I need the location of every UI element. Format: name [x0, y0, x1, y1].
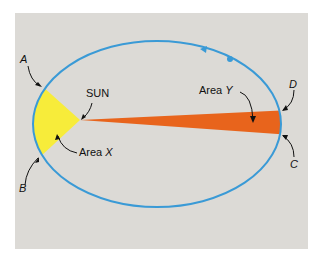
area-y-wedge: [80, 110, 290, 135]
label-area-x: Area X: [79, 146, 113, 158]
label-area-y: Area Y: [199, 84, 233, 96]
label-d: D: [289, 78, 297, 90]
label-c: C: [290, 158, 298, 170]
leader-area-x: [58, 136, 77, 153]
label-a: A: [20, 53, 27, 65]
label-b: B: [19, 182, 26, 194]
label-sun: SUN: [86, 87, 109, 99]
area-x-wedge: [20, 86, 80, 157]
orbit-diagram: [0, 0, 323, 264]
leader-d: [283, 90, 294, 110]
leader-c: [283, 136, 294, 157]
area-x-prefix: Area: [79, 146, 102, 158]
planet-dot: [227, 56, 233, 62]
area-y-prefix: Area: [199, 84, 222, 96]
area-y-var: Y: [225, 84, 232, 96]
area-x-var: X: [105, 146, 112, 158]
